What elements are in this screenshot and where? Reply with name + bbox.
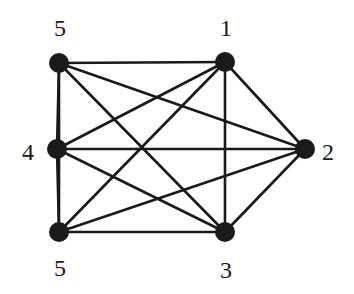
- node-label-tr: 1: [220, 15, 232, 41]
- graph-edges: [57, 62, 305, 232]
- node-tl: [49, 53, 69, 73]
- node-br: [215, 222, 235, 242]
- node-tr: [215, 52, 235, 72]
- edge-r-bl: [59, 149, 305, 232]
- graph-nodes: [47, 52, 315, 242]
- node-ml: [47, 139, 67, 159]
- edge-tl-tr: [59, 62, 225, 63]
- node-label-bl: 5: [54, 255, 66, 281]
- node-label-r: 2: [322, 139, 334, 165]
- node-label-ml: 4: [22, 139, 34, 165]
- node-r: [295, 139, 315, 159]
- node-label-br: 3: [220, 257, 232, 283]
- edge-tr-ml: [57, 62, 225, 149]
- graph-diagram: 512453: [0, 0, 354, 294]
- node-label-tl: 5: [54, 15, 66, 41]
- edge-ml-br: [57, 149, 225, 232]
- node-bl: [49, 222, 69, 242]
